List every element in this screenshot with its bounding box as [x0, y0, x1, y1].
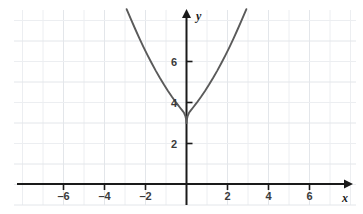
y-axis — [182, 9, 193, 205]
x-tick-label: 6 — [306, 190, 312, 202]
y-axis-label: y — [194, 9, 202, 23]
x-tick-label: 4 — [265, 190, 272, 202]
y-axis-arrow-icon — [182, 9, 191, 18]
y-tick-labels: 2 4 6 — [171, 56, 178, 150]
graph-canvas: –6 –4 –2 2 4 6 2 4 6 x y — [0, 0, 363, 214]
coordinate-plane-figure: –6 –4 –2 2 4 6 2 4 6 x y — [0, 0, 363, 214]
y-tick-label: 2 — [171, 138, 177, 150]
x-tick-label: –6 — [57, 190, 69, 202]
x-axis-label: x — [341, 191, 348, 205]
grid-lines — [14, 10, 356, 205]
y-tick-label: 6 — [171, 56, 177, 68]
x-tick-labels: –6 –4 –2 2 4 6 — [57, 190, 312, 202]
x-tick-label: –2 — [139, 190, 151, 202]
x-tick-label: –4 — [98, 190, 111, 202]
x-axis-arrow-icon — [344, 180, 353, 189]
x-tick-label: 2 — [224, 190, 230, 202]
x-axis — [17, 180, 353, 191]
y-tick-label: 4 — [171, 97, 178, 109]
